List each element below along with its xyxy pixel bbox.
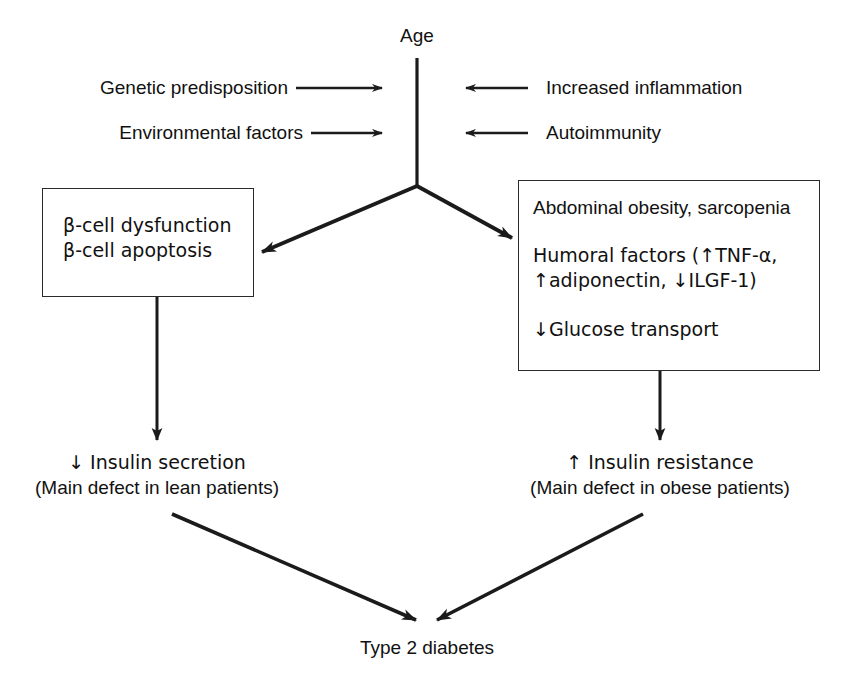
obesity-box-line-4: ↓Glucose transport (533, 317, 718, 342)
insulin-resistance-to-diabetes-arrow (437, 514, 643, 620)
beta-cell-box-line-1: β-cell dysfunction (63, 213, 232, 238)
input-increased-inflammation-label: Increased inflammation (546, 76, 742, 100)
obesity-box-line-3: ↑adiponectin, ↓ILGF-1) (533, 268, 757, 293)
beta-cell-box: β-cell dysfunction β-cell apoptosis (42, 188, 254, 297)
age-label: Age (400, 24, 434, 48)
input-genetic-predisposition-label: Genetic predisposition (100, 76, 288, 100)
insulin-resistance-sublabel: (Main defect in obese patients) (530, 476, 790, 500)
obesity-box-line-2: Humoral factors (↑TNF-α, (533, 243, 777, 268)
diagram-canvas: Age Genetic predisposition Environmental… (0, 0, 854, 689)
insulin-secretion-sublabel: (Main defect in lean patients) (35, 476, 279, 500)
obesity-humoral-box: Abdominal obesity, sarcopenia Humoral fa… (518, 180, 820, 371)
type-2-diabetes-label: Type 2 diabetes (360, 636, 494, 660)
insulin-resistance-label: ↑ Insulin resistance (566, 450, 754, 474)
input-autoimmunity-label: Autoimmunity (546, 121, 661, 145)
input-environmental-factors-label: Environmental factors (119, 121, 303, 145)
beta-cell-box-line-2: β-cell apoptosis (63, 238, 212, 263)
insulin-secretion-label: ↓ Insulin secretion (68, 450, 246, 474)
branch-to-beta-cell-box-arrow (262, 186, 417, 252)
obesity-box-line-1: Abdominal obesity, sarcopenia (533, 195, 790, 220)
branch-to-obesity-box-arrow (417, 186, 512, 238)
insulin-secretion-to-diabetes-arrow (172, 514, 416, 620)
